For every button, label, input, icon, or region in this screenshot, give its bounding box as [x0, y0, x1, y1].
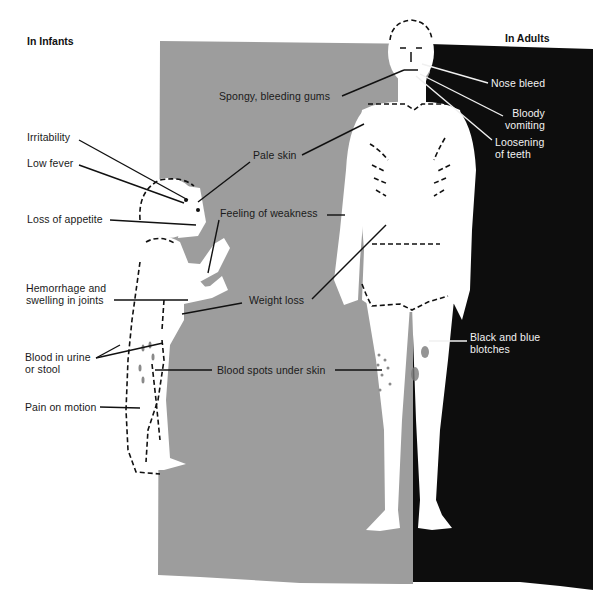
label-weight-loss: Weight loss [249, 294, 304, 306]
label-black-and-blue-blotches: Black and blue blotches [470, 331, 540, 355]
label-irritability: Irritability [27, 131, 70, 143]
label-hemorrhage-joints: Hemorrhage and swelling in joints [26, 282, 106, 306]
leader-blood-urine-1 [96, 345, 120, 358]
label-spongy-gums: Spongy, bleeding gums [219, 90, 330, 102]
label-feeling-of-weakness: Feeling of weakness [220, 207, 318, 219]
label-pain-on-motion: Pain on motion [25, 401, 96, 413]
label-blood-spots: Blood spots under skin [217, 364, 325, 376]
leader-pain-motion [100, 407, 140, 408]
label-nose-bleed: Nose bleed [491, 77, 545, 89]
label-loss-of-appetite: Loss of appetite [27, 213, 103, 225]
heading-in-infants: In Infants [27, 35, 74, 47]
label-low-fever: Low fever [27, 157, 73, 169]
label-pale-skin: Pale skin [253, 149, 297, 161]
label-blood-urine-stool: Blood in urine or stool [25, 351, 91, 375]
scurvy-symptoms-diagram: In Infants In Adults Irritability Low fe… [0, 0, 593, 599]
label-bloody-vomiting: Bloody vomiting [505, 107, 545, 131]
label-loosening-of-teeth: Loosening of teeth [495, 136, 544, 160]
heading-in-adults: In Adults [505, 32, 550, 44]
